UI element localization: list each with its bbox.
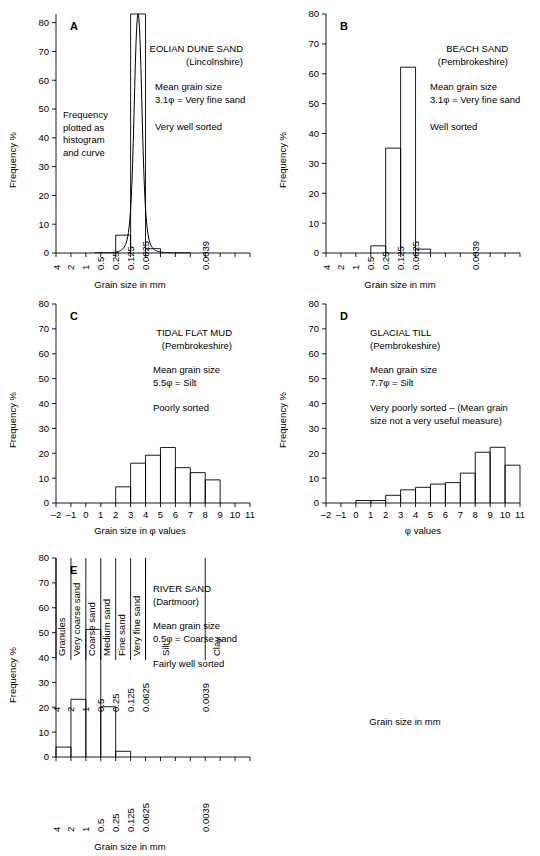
phi-tick-label: 6 [443,509,448,520]
y-tick-label: 70 [308,38,319,49]
panel-a-x-axis-title: Grain size in mm [94,279,165,290]
y-tick-label: 0 [44,247,49,258]
classification-label: Silt [160,642,171,656]
y-tick-label: 30 [38,677,49,688]
classification-label: Very fine sand [131,596,142,656]
panel-a-plot: 01020304050607080 A EOLIAN DUNE SAND (Li… [0,0,270,290]
histogram-bar [430,484,445,503]
y-tick-label: 30 [308,158,319,169]
mm-tick-label: 2 [65,265,76,270]
panel-c-locality: (Pembrokeshire) [162,340,232,351]
y-tick-label: 20 [308,188,319,199]
phi-tick-label: 8 [203,509,208,520]
classification-mm-label: 0.0039 [200,683,211,712]
mm-tick-label: 0.125 [395,246,406,270]
panel-d-sorting-line2: size not a very useful measure) [370,415,502,426]
mm-tick-label: 1 [350,265,361,270]
histogram-bar [101,707,116,757]
classification-chart: GranulesVery coarse sandCoarse sandMediu… [270,540,540,740]
phi-tick-label: 5 [428,509,433,520]
panel-d-mean-label: Mean grain size [370,364,437,375]
mm-tick-label: 0.5 [95,257,106,270]
y-tick-label: 0 [314,497,319,508]
phi-tick-label: 4 [413,509,418,520]
phi-tick-label: 4 [143,509,148,520]
histogram-bar [190,473,205,503]
panel-b-y-axis-title: Frequency % [277,131,288,188]
panel-d-sorting: Very poorly sorted – (Mean grain [370,402,508,413]
mm-tick-label: 0.5 [95,819,106,832]
y-tick-label: 80 [38,17,49,28]
mm-tick-label: 2 [65,827,76,832]
y-tick-label: 70 [38,577,49,588]
phi-tick-label: 9 [218,509,223,520]
panel-d-phi-tick-labels: –2–101234567891011 [321,509,525,520]
panel-a: 01020304050607080 A EOLIAN DUNE SAND (Li… [0,0,270,290]
y-tick-label: 30 [308,423,319,434]
classification-label: Very coarse sand [71,583,82,656]
y-tick-label: 10 [38,727,49,738]
panel-d-letter: D [340,310,348,322]
panel-b-mean-value: 3.1φ = Very fine sand [430,94,520,105]
panel-e-locality: (Dartmoor) [153,596,199,607]
histogram-bar [401,67,416,253]
mm-tick-label: 0.0625 [140,241,151,270]
panel-a-locality: (Lincolnshire) [186,56,243,67]
mm-tick-label: 2 [335,265,346,270]
y-tick-label: 50 [308,98,319,109]
classification-mm-label: 0.0625 [140,683,151,712]
mm-tick-label: 0.0039 [200,241,211,270]
histogram-bar [131,14,146,253]
mm-tick-label: 0.0625 [410,241,421,270]
panel-d-x-axis-title: φ values [405,525,442,536]
panel-d: 01020304050607080 D GLACIAL TILL (Pembro… [270,290,540,540]
panel-b-sorting: Well sorted [430,121,477,132]
panel-e-sorting: Fairly well sorted [153,658,224,669]
mm-tick-label: 0.125 [125,808,136,832]
mm-tick-label: 4 [51,265,62,270]
histogram-bar [386,148,401,253]
mm-tick-label: 0.5 [365,257,376,270]
y-tick-label: 30 [38,161,49,172]
panel-c-x-axis-title: Grain size in φ values [94,525,186,536]
histogram-bar [460,473,475,503]
classification-mm-label: 0.125 [125,688,136,712]
y-tick-label: 20 [308,448,319,459]
classification-label: Clay [211,637,222,656]
panel-e-mean-label: Mean grain size [153,620,220,631]
panel-a-title: EOLIAN DUNE SAND [150,43,244,54]
panel-c: 01020304050607080 C TIDAL FLAT MUD (Pemb… [0,290,270,540]
panel-b-title: BEACH SAND [446,43,508,54]
panel-d-xaxis [326,503,520,507]
y-tick-label: 80 [308,298,319,309]
panel-b-plot: 01020304050607080 B BEACH SAND (Pembroke… [270,0,540,290]
phi-tick-label: 3 [398,509,403,520]
histogram-bar [146,455,161,503]
y-tick-label: 20 [38,702,49,713]
mm-tick-label: 0.25 [110,814,121,833]
y-tick-label: 40 [308,398,319,409]
y-tick-label: 40 [38,398,49,409]
panel-c-y-axis-title: Frequency % [7,391,18,448]
classification-mm-label: 4 [51,707,62,712]
panel-a-y-axis-title: Frequency % [7,131,18,188]
panel-b-x-axis-title: Grain size in mm [364,279,435,290]
panel-e-y-axis-title: Frequency % [7,646,18,703]
histogram-bar [445,483,460,503]
y-tick-label: 10 [38,219,49,230]
histogram-bar [205,480,220,503]
panel-b-mean-label: Mean grain size [430,81,497,92]
panel-a-note-line: plotted as [63,122,104,133]
histogram-bar [116,751,131,757]
histogram-bar [490,447,505,503]
panel-c-mean-value: 5.5φ = Silt [153,377,197,388]
panel-d-yaxis: 01020304050607080 [308,298,326,508]
classification-mm-label: 0.25 [110,694,121,713]
y-tick-label: 40 [308,128,319,139]
panel-b-xaxis [326,253,520,257]
y-tick-label: 60 [38,75,49,86]
phi-tick-label: 1 [98,509,103,520]
y-tick-label: 50 [38,373,49,384]
mm-tick-label: 0.125 [125,246,136,270]
y-tick-label: 40 [38,652,49,663]
